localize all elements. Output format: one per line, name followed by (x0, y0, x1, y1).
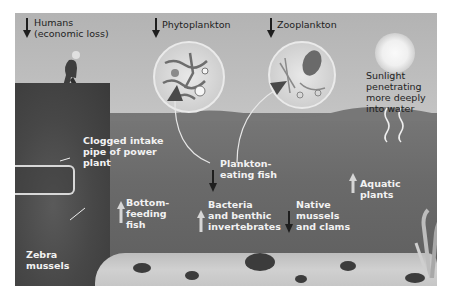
increase-arrow-icon (116, 201, 126, 223)
decrease-arrow-icon (284, 211, 294, 233)
feeding-arrows (15, 13, 437, 286)
label-native-mussels: Native mussels and clams (296, 199, 350, 232)
label-humans: Humans (economic loss) (34, 17, 109, 39)
rock (133, 263, 151, 273)
label-aquatic-plants: Aquatic plants (360, 178, 437, 200)
rock (245, 253, 275, 271)
increase-arrow-icon (196, 210, 206, 232)
label-phytoplankton: Phytoplankton (162, 19, 230, 30)
rock (185, 271, 199, 280)
aquatic-plant-icon (410, 208, 437, 278)
label-sunlight: Sunlight penetrating more deeply into wa… (366, 70, 426, 114)
rock (295, 275, 307, 283)
label-clogged-pipe: Clogged intake pipe of power plant (83, 135, 163, 168)
label-bottom-fish: Bottom- feeding fish (126, 197, 169, 230)
increase-arrow-icon (348, 173, 358, 193)
decrease-arrow-icon (208, 170, 218, 192)
decrease-arrow-icon (266, 18, 276, 38)
decrease-arrow-icon (151, 18, 161, 38)
label-zooplankton: Zooplankton (277, 19, 337, 30)
label-bacteria: Bacteria and benthic invertebrates (208, 199, 281, 232)
diagram-panel: Humans (economic loss) Phytoplankton Zoo… (15, 13, 437, 286)
rock (340, 261, 356, 271)
label-zebra-mussels: Zebra mussels (26, 249, 69, 271)
decrease-arrow-icon (22, 18, 32, 38)
label-plankton-fish: Plankton- eating fish (220, 158, 277, 180)
